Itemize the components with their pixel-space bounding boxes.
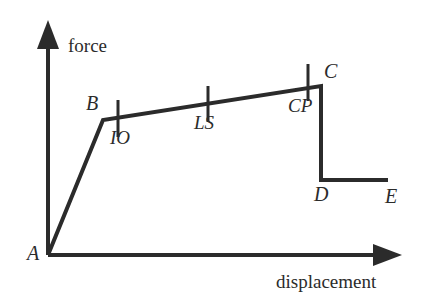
arrow-up-icon <box>37 20 59 49</box>
force-displacement-diagram: force displacement A B C D E IO LS CP <box>0 0 427 304</box>
performance-label-io: IO <box>110 128 130 147</box>
point-label-c: C <box>324 61 337 81</box>
x-axis-label: displacement <box>276 272 376 291</box>
backbone-curve <box>48 86 388 255</box>
performance-label-ls: LS <box>194 113 214 132</box>
point-label-a: A <box>27 243 39 263</box>
point-label-d: D <box>314 184 328 204</box>
point-label-b: B <box>86 93 98 113</box>
performance-label-cp: CP <box>288 96 312 115</box>
point-label-e: E <box>385 186 397 206</box>
y-axis-label: force <box>68 36 107 55</box>
diagram-canvas <box>0 0 427 304</box>
arrow-right-icon <box>373 244 402 266</box>
